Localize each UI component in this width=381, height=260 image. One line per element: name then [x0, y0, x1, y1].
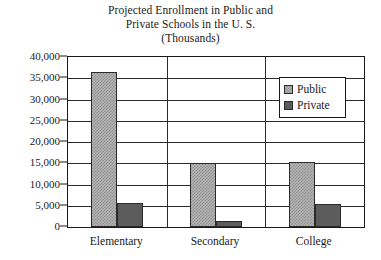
x-category-label: Elementary [90, 234, 143, 248]
bar-elementary-private [117, 203, 143, 227]
group-separator [167, 57, 168, 227]
chart-title-line-3: (Thousands) [0, 31, 381, 45]
y-tick-mark [60, 204, 67, 205]
y-tick-mark [60, 183, 67, 184]
private-swatch-icon [284, 101, 293, 110]
chart-title-line-2: Private Schools in the U. S. [0, 17, 381, 31]
y-tick-mark [60, 141, 67, 142]
x-category-label: Secondary [191, 234, 240, 248]
bar-secondary-private [216, 221, 242, 227]
y-tick-label: 40,000 [0, 51, 60, 62]
bar-chart: Projected Enrollment in Public and Priva… [0, 0, 381, 260]
y-tick-mark [60, 77, 67, 78]
y-tick-mark [60, 56, 67, 57]
y-tick-label: 10,000 [0, 178, 60, 189]
y-tick-mark [60, 119, 67, 120]
y-tick-mark [60, 98, 67, 99]
x-category-label: College [296, 234, 332, 248]
bar-college-public [289, 162, 315, 227]
legend-item-public: Public [284, 81, 341, 97]
legend-label-private: Private [297, 99, 330, 111]
y-tick-label: 5,000 [0, 199, 60, 210]
legend-item-private: Private [284, 97, 341, 113]
chart-title-line-1: Projected Enrollment in Public and [0, 3, 381, 17]
public-swatch-icon [284, 85, 293, 94]
y-tick-mark [60, 226, 67, 227]
y-tick-label: 15,000 [0, 157, 60, 168]
bar-college-private [315, 204, 341, 227]
chart-title: Projected Enrollment in Public and Priva… [0, 3, 381, 45]
x-axis: ElementarySecondaryCollege [67, 234, 365, 252]
bar-elementary-public [91, 72, 117, 227]
y-axis: 05,00010,00015,00020,00025,00030,00035,0… [0, 56, 60, 228]
y-tick-label: 0 [0, 221, 60, 232]
bar-secondary-public [190, 163, 216, 227]
y-tick-label: 20,000 [0, 136, 60, 147]
group-separator [265, 57, 266, 227]
y-tick-label: 30,000 [0, 93, 60, 104]
y-tick-label: 25,000 [0, 114, 60, 125]
y-tick-mark [60, 162, 67, 163]
legend-label-public: Public [297, 83, 326, 95]
y-tick-label: 35,000 [0, 72, 60, 83]
chart-legend: Public Private [279, 77, 346, 118]
